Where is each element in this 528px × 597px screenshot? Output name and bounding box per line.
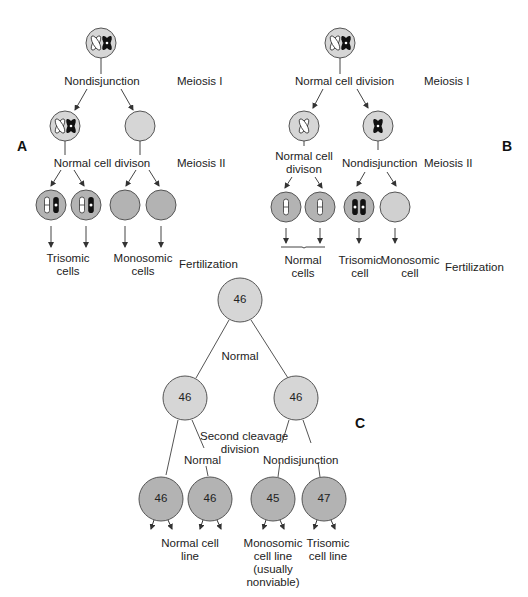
a-meiosis1-label: Meiosis I	[177, 75, 222, 88]
a-trisomic-label: Trisomic cells	[38, 252, 98, 278]
b-normal-cells-label: Normal cells	[278, 254, 328, 280]
c-normal-line-label: Normal cell line	[155, 537, 225, 563]
leaf-count-2: 46	[190, 492, 230, 504]
zygote-count: 46	[220, 293, 260, 305]
panel-a-letter: A	[17, 138, 27, 154]
a-stage2-label: Normal cell divison	[52, 157, 152, 170]
b-meiosis2-label: Meiosis II	[424, 157, 473, 170]
c-second-cleavage-label: Second cleavage division	[200, 430, 280, 456]
panel-b	[271, 28, 410, 248]
leaf-count-4: 47	[304, 492, 344, 504]
a-fertilization-label: Fertilization	[179, 258, 238, 271]
a-meiosis2-label: Meiosis II	[177, 157, 226, 170]
c-monosomic-line-label: Monosomic cell line (usually nonviable)	[242, 537, 304, 589]
panel-b-letter: B	[502, 138, 512, 154]
c-normal-second-label: Normal	[180, 454, 225, 467]
a-monosomic-label: Monosomic cells	[112, 252, 174, 278]
c-nondisjunction-label: Nondisjunction	[263, 454, 335, 467]
left-blastomere-count: 46	[165, 391, 205, 403]
b-meiosis1-label: Meiosis I	[424, 75, 469, 88]
panel-c-letter: C	[355, 415, 365, 431]
right-blastomere-count: 46	[276, 391, 316, 403]
cell-a-disomic	[50, 111, 80, 141]
b-monosomic-label: Monosomic cell	[380, 254, 440, 280]
b-nondisjunction-label: Nondisjunction	[342, 157, 414, 170]
b-fertilization-label: Fertilization	[445, 261, 504, 274]
cell-a-parent	[86, 28, 116, 58]
a-stage1-label: Nondisjunction	[62, 75, 142, 88]
cell-a-nullisomic	[125, 111, 155, 141]
leaf-count-1: 46	[141, 492, 181, 504]
panel-a	[36, 28, 176, 247]
c-normal-first-label: Normal	[215, 350, 265, 363]
c-trisomic-line-label: Trisomic cell line	[302, 537, 354, 563]
diagram-canvas	[0, 0, 528, 597]
b-trisomic-label: Trisomic cell	[335, 254, 385, 280]
b-stage1-label: Normal cell division	[295, 75, 385, 88]
bracket-normal-cells	[281, 247, 325, 248]
b-normal-division-label: Normal cell divison	[274, 150, 334, 176]
leaf-count-3: 45	[253, 492, 293, 504]
